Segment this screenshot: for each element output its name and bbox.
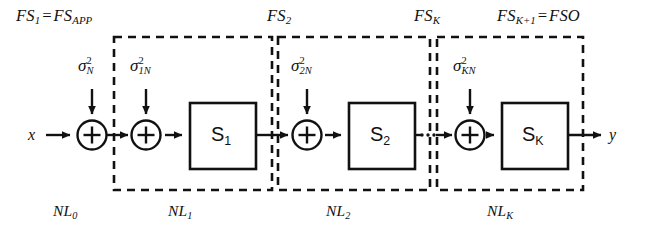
diagram-vector-layer <box>0 0 652 236</box>
label-sigma-kn: σ2KN <box>453 57 461 74</box>
label-fsk1: FSK+1=FSO <box>497 8 580 26</box>
label-sigma-2n: σ22N <box>291 57 299 74</box>
label-nl2: NL2 <box>326 203 350 222</box>
block-label-s1: S1 <box>211 124 231 147</box>
block-label-sk: SK <box>522 124 544 147</box>
label-input-x: x <box>28 127 35 143</box>
label-sigma-n: σ2N <box>78 57 86 74</box>
label-nl1: NL1 <box>168 203 192 222</box>
label-fs1: FS1=FSAPP <box>16 8 92 26</box>
label-nl0: NL0 <box>53 203 77 222</box>
cascade-ellipsis-dots <box>420 133 435 136</box>
label-output-y: y <box>609 127 616 143</box>
label-sigma-1n: σ21N <box>130 57 138 74</box>
label-fsk: FSK <box>414 8 440 26</box>
figure-canvas: FS1=FSAPP FS2 FSK FSK+1=FSO σ2N σ21N σ22… <box>0 0 652 236</box>
block-label-s2: S2 <box>370 124 390 147</box>
label-fs2: FS2 <box>267 8 291 26</box>
label-nlk: NLK <box>487 203 513 222</box>
